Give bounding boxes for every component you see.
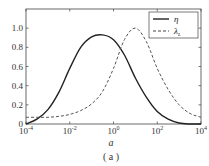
x-tick-label: 10-4 — [19, 125, 33, 136]
y-tick-label: 0.2 — [12, 100, 23, 110]
legend: η λL — [149, 12, 198, 38]
x-tick-label: 100 — [108, 125, 120, 136]
y-tick-label: 0.4 — [12, 81, 24, 91]
x-axis-label: a — [109, 137, 114, 148]
x-tick-label: 10-2 — [63, 125, 77, 136]
line-chart: 00.20.40.60.81.0 10-410-2100102104 η λL … — [0, 0, 209, 166]
y-tick-label: 0.8 — [12, 42, 24, 52]
figure-caption: ( a ) — [103, 151, 119, 163]
y-tick-label: 0.6 — [12, 62, 24, 72]
y-tick-label: 1.0 — [12, 23, 24, 33]
legend-label-eta: η — [174, 14, 179, 24]
x-tick-label: 102 — [151, 125, 163, 136]
x-tick-label: 104 — [195, 125, 207, 136]
